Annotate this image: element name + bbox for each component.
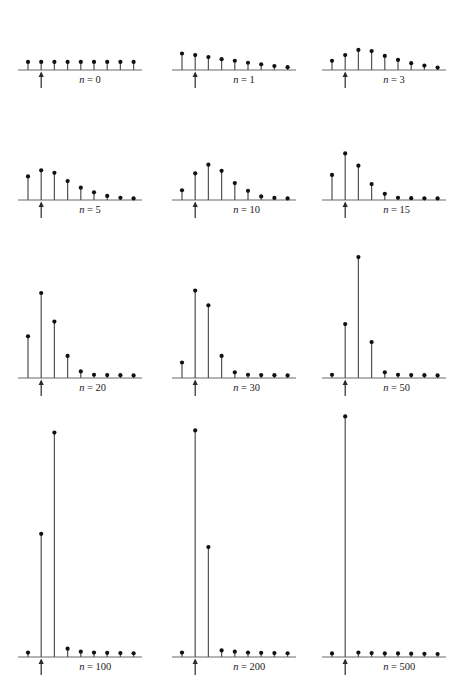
panel-label: n = 30 [233,382,260,393]
stem-group [52,431,56,658]
stem-group [356,255,360,378]
stem-marker-dot [180,360,184,364]
panel-n-1: n = 1 [172,0,302,96]
stem-group [220,354,224,378]
stem-marker-dot [409,196,413,200]
stem-marker-dot [180,651,184,655]
stem-group [343,414,347,657]
stem-marker-dot [272,373,276,377]
stem-marker-dot [422,63,426,67]
stem-group [39,60,43,70]
stem-plot-figure: n = 0n = 1n = 3n = 5n = 10n = 15n = 20n … [0,0,462,683]
stem-group [180,51,184,70]
stem-group [286,65,290,70]
stem-group [246,651,250,658]
stem-group [26,651,30,658]
stem-marker-dot [259,194,263,198]
stem-marker-dot [79,369,83,373]
stem-group [193,53,197,70]
stem-group [272,651,276,657]
stem-group [370,182,374,200]
origin-arrow-icon [193,659,198,676]
stem-marker-dot [259,373,263,377]
stem-group [180,651,184,658]
stem-marker-dot [272,64,276,68]
stem-marker-dot [193,171,197,175]
stem-marker-dot [132,196,136,200]
stem-group [92,373,96,378]
stem-marker-dot [92,651,96,655]
stem-marker-dot [118,60,122,64]
stem-marker-dot [396,58,400,62]
panel-plot-area: n = 200 [172,400,302,683]
stem-marker-dot [66,647,70,651]
stem-marker-dot [396,373,400,377]
panel-n-3: n = 3 [322,0,452,96]
stem-group [39,532,43,657]
stem-marker-dot [26,334,30,338]
stem-marker-dot [118,373,122,377]
stem-group [220,169,224,200]
stem-group [105,651,109,657]
stem-group [330,373,334,378]
stem-group [79,369,83,378]
stem-marker-dot [26,60,30,64]
stem-group [132,373,136,378]
stem-marker-dot [206,163,210,167]
panel-n-100: n = 100 [18,400,148,683]
stem-group [118,196,122,200]
stem-marker-dot [409,61,413,65]
stem-group [66,179,70,200]
stem-marker-dot [118,196,122,200]
stem-group [383,651,387,657]
stem-group [409,61,413,70]
stem-group [436,373,440,378]
stem-marker-dot [206,55,210,59]
stem-marker-dot [246,373,250,377]
stem-marker-dot [330,373,334,377]
panel-label: n = 200 [233,661,265,672]
stem-group [105,373,109,378]
stem-group [66,354,70,378]
stem-marker-dot [79,60,83,64]
stem-marker-dot [92,190,96,194]
stem-group [409,652,413,657]
stem-group [370,651,374,657]
stem-marker-dot [206,303,210,307]
stem-group [206,545,210,657]
stem-group [52,320,56,378]
stem-group [422,196,426,200]
stem-group [272,64,276,70]
stem-group [92,651,96,658]
stem-group [422,63,426,70]
stem-group [343,322,347,378]
stem-group [193,428,197,657]
stem-group [422,373,426,378]
stem-marker-dot [422,373,426,377]
origin-arrow-icon [343,380,348,397]
stem-group [343,151,347,200]
panel-label: n = 10 [233,204,260,215]
stem-group [118,373,122,378]
panel-label: n = 5 [79,204,101,215]
stem-marker-dot [52,60,56,64]
origin-arrow-icon [39,380,44,397]
panel-plot-area: n = 5 [18,112,148,226]
stem-group [330,59,334,70]
stem-marker-dot [180,188,184,192]
stem-group [370,49,374,70]
stem-marker-dot [272,196,276,200]
stem-marker-dot [132,373,136,377]
stem-group [259,651,263,657]
stem-marker-dot [220,169,224,173]
stem-group [118,651,122,657]
panel-plot-area: n = 1 [172,0,302,96]
stem-marker-dot [105,651,109,655]
stem-group [52,60,56,70]
stem-group [193,288,197,378]
stem-marker-dot [343,322,347,326]
panel-label: n = 100 [79,661,111,672]
panel-label: n = 50 [383,382,410,393]
origin-arrow-icon [343,202,348,219]
stem-marker-dot [220,354,224,358]
